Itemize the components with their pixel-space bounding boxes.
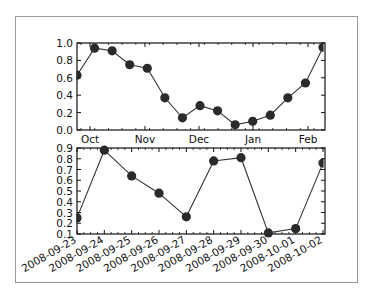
figure-canvas: 0.00.20.40.60.81.0OctNovDecJanFeb 0.10.2… bbox=[0, 0, 373, 297]
data-point bbox=[266, 111, 275, 120]
data-point bbox=[318, 158, 327, 167]
data-point bbox=[182, 212, 191, 221]
data-point bbox=[248, 117, 257, 126]
x-tick-label: Jan bbox=[244, 133, 261, 145]
data-point bbox=[195, 101, 204, 110]
data-point bbox=[160, 93, 169, 102]
y-tick-label: 0.9 bbox=[56, 142, 73, 154]
y-tick-label: 0.2 bbox=[56, 217, 73, 229]
data-point bbox=[178, 113, 187, 122]
y-tick-label: 0.4 bbox=[56, 89, 73, 101]
y-tick-label: 0.0 bbox=[56, 124, 73, 136]
y-tick-label: 0.7 bbox=[56, 164, 73, 176]
y-tick-label: 0.3 bbox=[56, 207, 73, 219]
data-point bbox=[318, 43, 327, 52]
data-point bbox=[236, 153, 245, 162]
bottom-line-chart: 0.10.20.30.40.50.60.70.80.92008-09-23200… bbox=[19, 142, 327, 274]
y-tick-label: 0.5 bbox=[56, 185, 73, 197]
x-tick-label: Nov bbox=[135, 133, 156, 145]
y-tick-label: 0.6 bbox=[56, 72, 73, 84]
y-tick-label: 0.8 bbox=[56, 54, 73, 66]
data-point bbox=[264, 228, 273, 237]
x-tick-label: Feb bbox=[299, 133, 318, 145]
x-tick-label: Oct bbox=[81, 133, 99, 145]
bottom-axes-box bbox=[77, 148, 325, 234]
data-point bbox=[154, 189, 163, 198]
data-point bbox=[108, 46, 117, 55]
data-point bbox=[72, 213, 81, 222]
y-tick-label: 0.4 bbox=[56, 196, 73, 208]
data-point bbox=[231, 120, 240, 129]
data-point bbox=[213, 106, 222, 115]
data-point bbox=[143, 64, 152, 73]
x-tick-label: Dec bbox=[189, 133, 210, 145]
data-point bbox=[125, 60, 134, 69]
y-tick-label: 0.2 bbox=[56, 107, 73, 119]
y-tick-label: 0.6 bbox=[56, 174, 73, 186]
data-point bbox=[127, 171, 136, 180]
top-axes-box bbox=[77, 43, 325, 130]
data-point bbox=[301, 78, 310, 87]
data-point bbox=[72, 71, 81, 80]
data-point bbox=[100, 146, 109, 155]
data-point bbox=[283, 93, 292, 102]
y-tick-label: 0.8 bbox=[56, 153, 73, 165]
data-point bbox=[209, 156, 218, 165]
y-tick-label: 1.0 bbox=[56, 37, 73, 49]
data-point bbox=[90, 44, 99, 53]
data-point bbox=[291, 224, 300, 233]
top-line-chart: 0.00.20.40.60.81.0OctNovDecJanFeb bbox=[56, 37, 327, 145]
